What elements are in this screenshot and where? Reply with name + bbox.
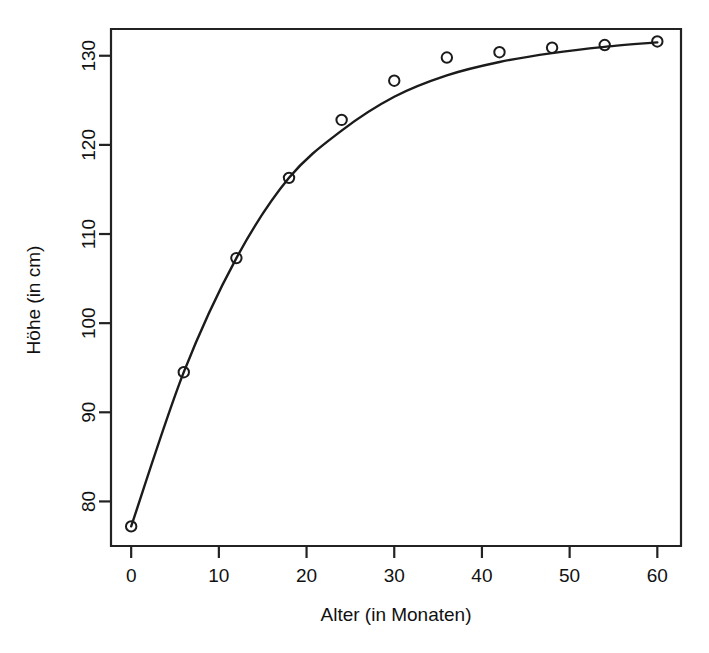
x-axis-label: Alter (in Monaten) — [320, 604, 471, 625]
chart-background — [0, 0, 709, 653]
x-tick-label: 50 — [559, 565, 580, 586]
x-tick-label: 0 — [126, 565, 137, 586]
x-tick-label: 60 — [647, 565, 668, 586]
y-tick-label: 100 — [79, 307, 100, 339]
x-tick-label: 20 — [296, 565, 317, 586]
x-tick-label: 30 — [384, 565, 405, 586]
y-tick-label: 130 — [79, 40, 100, 72]
y-tick-label: 90 — [79, 402, 100, 423]
y-tick-label: 120 — [79, 129, 100, 161]
y-tick-label: 110 — [79, 219, 100, 249]
growth-curve-chart: 0102030405060 8090100110120130 Alter (in… — [0, 0, 709, 653]
x-tick-label: 40 — [471, 565, 492, 586]
y-axis-label: Höhe (in cm) — [23, 246, 44, 355]
x-tick-label: 10 — [208, 565, 229, 586]
y-tick-label: 80 — [79, 491, 100, 512]
